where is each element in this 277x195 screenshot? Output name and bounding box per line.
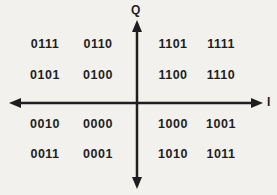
- constellation-code: 0010: [23, 118, 67, 131]
- constellation-code: 1101: [151, 38, 195, 51]
- constellation-code: 0011: [23, 148, 67, 161]
- constellation-code: 0000: [76, 118, 120, 131]
- constellation-code: 0101: [23, 69, 67, 82]
- arrow-down-icon: [132, 177, 142, 189]
- arrow-left-icon: [9, 98, 21, 108]
- constellation-code: 1010: [151, 148, 195, 161]
- constellation-code: 0110: [76, 38, 120, 51]
- constellation-code: 0001: [76, 148, 120, 161]
- constellation-diagram: Q I 0111 0110 1101 1111 0101 0100 1100 1…: [0, 0, 277, 195]
- constellation-code: 0111: [23, 38, 67, 51]
- constellation-code: 1011: [199, 148, 243, 161]
- constellation-code: 1000: [151, 118, 195, 131]
- constellation-code: 1111: [199, 38, 243, 51]
- constellation-code: 1100: [151, 69, 195, 82]
- constellation-code: 0100: [76, 69, 120, 82]
- constellation-code: 1001: [199, 118, 243, 131]
- q-axis-label: Q: [131, 4, 140, 16]
- constellation-code: 1110: [199, 69, 243, 82]
- arrow-right-icon: [251, 98, 263, 108]
- arrow-up-icon: [132, 20, 142, 32]
- i-axis-label: I: [267, 96, 270, 108]
- iq-axes: [0, 0, 277, 195]
